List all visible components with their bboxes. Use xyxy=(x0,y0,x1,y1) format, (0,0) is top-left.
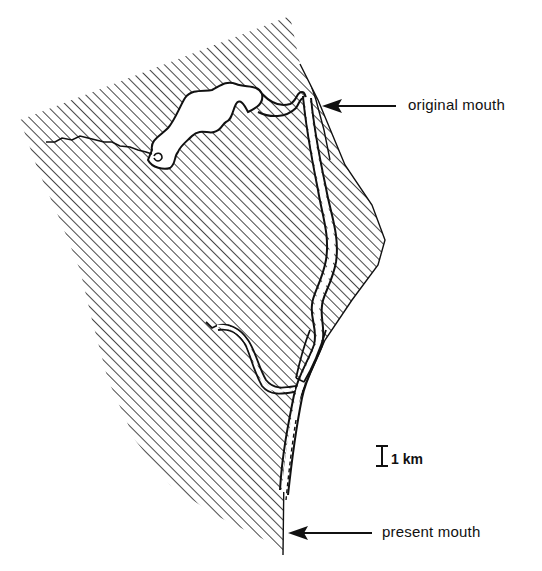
label-original-mouth: original mouth xyxy=(408,96,505,113)
arrow-original-mouth xyxy=(322,99,396,113)
arrow-present-mouth xyxy=(288,526,372,540)
scale-bar xyxy=(376,446,388,466)
scale-bar-label: 1 km xyxy=(391,451,423,467)
label-present-mouth: present mouth xyxy=(382,523,481,540)
map-figure xyxy=(0,0,542,571)
